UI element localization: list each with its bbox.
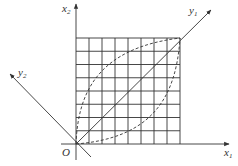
x2-axis-label: x2 [61,2,71,16]
origin-label: O [62,146,70,158]
x1-axis-label: x1 [223,146,232,160]
y2-axis-label: y2 [17,66,27,80]
y1-axis-label: y1 [188,4,197,18]
y2-axis [10,74,91,157]
coordinate-diagram: x2 y1 y2 x1 O [0,0,238,166]
